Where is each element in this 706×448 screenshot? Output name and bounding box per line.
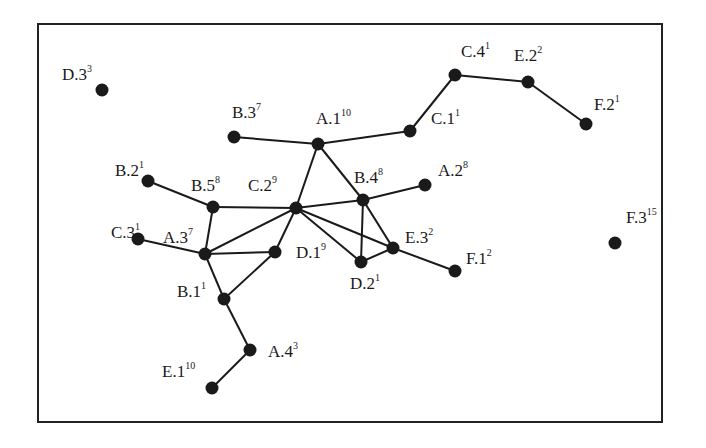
edges-layer [138, 75, 586, 388]
node-A.4 [244, 344, 257, 357]
node-D.1 [269, 246, 282, 259]
node-label-A.4: A.43 [268, 340, 298, 361]
node-label-B.1: B.11 [177, 280, 206, 301]
edge-E.3-F.1 [393, 248, 455, 271]
edge-A.3-B.1 [205, 254, 224, 299]
node-B.3 [228, 131, 241, 144]
node-C.1 [404, 125, 417, 138]
edge-B.5-A.3 [205, 207, 213, 254]
edge-B.1-A.4 [224, 299, 250, 350]
node-label-E.1: E.110 [162, 360, 195, 381]
node-label-B.2: B.21 [115, 159, 144, 180]
edge-A.3-C.2 [205, 208, 296, 254]
node-label-F.1: F.12 [466, 247, 492, 268]
labels-layer: D.33B.37A.110C.11C.41E.22F.21B.21B.58C.2… [62, 40, 657, 381]
node-E.3 [387, 242, 400, 255]
node-label-E.3: E.32 [405, 226, 433, 247]
network-graph: D.33B.37A.110C.11C.41E.22F.21B.21B.58C.2… [0, 0, 706, 448]
node-label-D.1: D.19 [296, 241, 326, 262]
node-E.1 [206, 382, 219, 395]
edge-B.1-D.1 [224, 252, 275, 299]
node-A.1 [312, 138, 325, 151]
node-label-D.2: D.21 [350, 272, 380, 293]
node-F.2 [580, 118, 593, 131]
node-F.1 [449, 265, 462, 278]
edge-A.1-C.2 [296, 144, 318, 208]
edge-B.4-A.2 [363, 185, 425, 200]
node-F.3 [609, 237, 622, 250]
edge-B.3-A.1 [234, 137, 318, 144]
edge-A.1-C.1 [318, 131, 410, 144]
node-label-C.2: C.29 [248, 174, 277, 195]
node-label-B.3: B.37 [232, 101, 261, 122]
node-label-C.1: C.11 [431, 107, 460, 128]
node-B.4 [357, 194, 370, 207]
node-label-B.5: B.58 [191, 174, 220, 195]
node-label-F.3: F.315 [626, 206, 657, 227]
node-C.2 [290, 202, 303, 215]
edge-C.4-E.2 [455, 75, 528, 82]
node-B.1 [218, 293, 231, 306]
node-label-F.2: F.21 [594, 93, 620, 114]
node-label-D.3: D.33 [62, 63, 92, 84]
edge-A.4-E.1 [212, 350, 250, 388]
node-B.5 [207, 201, 220, 214]
node-B.2 [142, 175, 155, 188]
edge-B.4-D.2 [361, 200, 363, 262]
edge-C.2-B.4 [296, 200, 363, 208]
node-label-A.2: A.28 [438, 159, 468, 180]
node-label-A.3: A.37 [163, 226, 193, 247]
node-label-B.4: B.48 [354, 166, 383, 187]
edge-E.2-F.2 [528, 82, 586, 124]
node-A.3 [199, 248, 212, 261]
edge-B.5-C.2 [213, 207, 296, 208]
node-D.3 [96, 84, 109, 97]
node-E.2 [522, 76, 535, 89]
node-A.2 [419, 179, 432, 192]
edge-A.3-D.1 [205, 252, 275, 254]
edge-C.2-E.3 [296, 208, 393, 248]
node-label-E.2: E.22 [514, 44, 542, 65]
node-D.2 [355, 256, 368, 269]
node-label-A.1: A.110 [316, 107, 351, 128]
edge-C.2-D.1 [275, 208, 296, 252]
node-label-C.4: C.41 [461, 40, 490, 61]
node-C.4 [449, 69, 462, 82]
